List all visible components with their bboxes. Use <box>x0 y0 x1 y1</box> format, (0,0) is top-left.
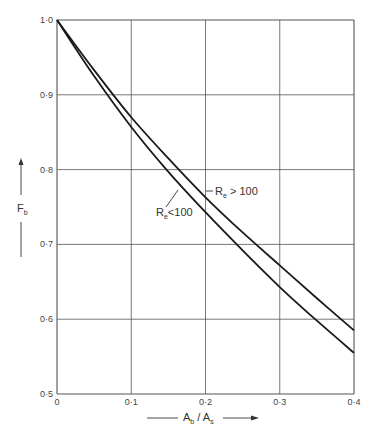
annotation-re-gt-100: Re > 100 <box>215 185 258 199</box>
tick-labels: 00·10·20·30·40·50·60·70·80·91·0 <box>40 15 361 407</box>
svg-text:Fb: Fb <box>17 202 28 216</box>
y-tick-label: 0·6 <box>40 314 53 324</box>
y-tick-label: 0·9 <box>40 90 53 100</box>
x-tick-label: 0 <box>54 397 59 407</box>
x-tick-label: 0·2 <box>199 397 212 407</box>
y-tick-label: 0·5 <box>40 389 53 399</box>
chart: 00·10·20·30·40·50·60·70·80·91·0 Re > 100… <box>0 0 377 433</box>
x-axis-label: Ab / As <box>147 411 259 425</box>
annotation-re-lt-100: Re<100 <box>156 206 193 220</box>
x-tick-label: 0·4 <box>347 397 360 407</box>
svg-text:Ab / As: Ab / As <box>183 411 214 425</box>
y-tick-label: 0·7 <box>40 239 53 249</box>
annotation-leader-lower <box>166 190 178 207</box>
up-arrow-icon <box>19 158 24 165</box>
y-axis-label: Fb <box>17 158 28 257</box>
y-tick-label: 1·0 <box>40 15 53 25</box>
x-tick-label: 0·1 <box>125 397 138 407</box>
y-tick-label: 0·8 <box>40 165 53 175</box>
right-arrow-icon <box>251 416 259 421</box>
grid <box>57 20 354 394</box>
x-tick-label: 0·3 <box>273 397 286 407</box>
